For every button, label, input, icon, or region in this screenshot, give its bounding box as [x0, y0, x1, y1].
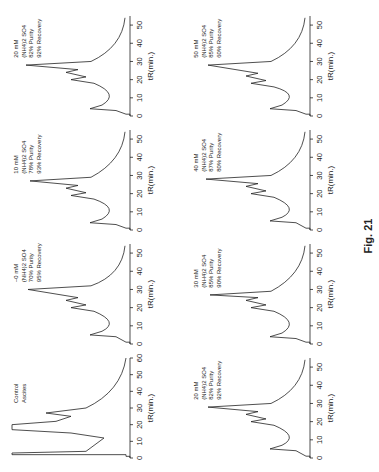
x-tick-label: 50 [315, 363, 324, 371]
x-tick-label: 30 [135, 171, 144, 179]
chromatogram-panel: 01020304050tR(min.)~0 mM(NH4)2 SO470% Pu… [13, 243, 155, 346]
chromatogram-trace [210, 246, 310, 344]
x-tick-label: 0 [135, 342, 144, 346]
x-axis-label: tR(min.) [326, 165, 335, 194]
chromatogram-trace [30, 132, 130, 230]
x-tick-label: 50 [315, 249, 324, 257]
x-axis-label: tR(min.) [326, 51, 335, 80]
x-tick-label: 50 [135, 21, 144, 29]
x-tick-label: 30 [135, 285, 144, 293]
x-tick-label: 10 [315, 436, 324, 444]
x-tick-label: 0 [315, 456, 324, 460]
panel-condition-label: 95% Recovery [36, 243, 42, 282]
x-tick-label: 40 [135, 39, 144, 47]
x-axis-label: tR(min.) [326, 279, 335, 308]
x-tick-label: 20 [315, 189, 324, 197]
panel-condition-label: 87% Purity [208, 143, 214, 172]
panel-condition-label: 40 mM [193, 153, 199, 171]
panel-condition-label: Ascites [21, 384, 27, 403]
chromatogram-trace [28, 246, 130, 344]
panel-condition-label: (NH4)2 SO4 [201, 366, 207, 400]
chromatogram-trace [12, 358, 130, 458]
chromatogram-panel: 01020304050tR(min.)40 mM(NH4)2 SO487% Pu… [193, 130, 335, 232]
x-axis-label: tR(min.) [146, 165, 155, 194]
x-tick-label: 0 [315, 228, 324, 232]
panel-condition-label: 30 mM [193, 269, 199, 287]
x-tick-label: 10 [315, 94, 324, 102]
x-tick-label: 40 [315, 39, 324, 47]
x-tick-label: 40 [315, 153, 324, 161]
panel-condition-label: ~0 mM [13, 264, 19, 283]
x-tick-label: 10 [135, 322, 144, 330]
x-tick-label: 20 [135, 189, 144, 197]
panel-condition-label: (NH4)2 SO4 [201, 254, 207, 288]
panel-condition-label: 92% Recovery [216, 361, 222, 400]
chromatogram-panel: 0102030405060tR(min.)ControlAscites [12, 354, 155, 460]
x-tick-label: 0 [315, 114, 324, 118]
x-tick-label: 0 [135, 456, 144, 460]
x-tick-label: 10 [315, 322, 324, 330]
panel-condition-label: 82% Purity [208, 371, 214, 400]
panel-condition-label: Control [13, 384, 19, 403]
panel-condition-label: 78% Purity [28, 145, 34, 174]
chromatogram-panel: 01020304050tR(min.)10 mM(NH4)2 SO478% Pu… [13, 130, 155, 232]
panel-condition-label: 80% Recovery [216, 133, 222, 172]
panel-condition-label: (NH4)2 SO4 [201, 138, 207, 172]
panel-condition-label: 90% Recovery [216, 249, 222, 288]
x-tick-label: 40 [315, 381, 324, 389]
panel-condition-label: 60% Recovery [216, 19, 222, 58]
x-tick-label: 10 [315, 208, 324, 216]
chromatogram-trace [208, 360, 310, 458]
x-tick-label: 20 [135, 420, 144, 428]
x-tick-label: 50 [315, 21, 324, 29]
x-tick-label: 20 [315, 417, 324, 425]
panel-condition-label: 85% Purity [208, 29, 214, 58]
panel-condition-label: 50 mM [193, 39, 199, 57]
panel-condition-label: 10 mM [13, 155, 19, 173]
figure-caption: Fig. 21 [362, 219, 374, 254]
panel-condition-label: 20 mM [13, 39, 19, 57]
panel-condition-label: (NH4)2 SO4 [21, 24, 27, 58]
x-tick-label: 0 [135, 228, 144, 232]
x-axis-label: tR(min.) [326, 393, 335, 422]
panel-condition-label: 85% Purity [208, 259, 214, 288]
x-tick-label: 0 [315, 342, 324, 346]
x-tick-label: 50 [135, 370, 144, 378]
chromatogram-panel: 01020304050tR(min.)20 mM(NH4)2 SO482% Pu… [193, 358, 335, 460]
panel-condition-label: (NH4)2 SO4 [201, 24, 207, 58]
chromatogram-figure: 0102030405060tR(min.)ControlAscites01020… [0, 0, 379, 472]
panel-condition-label: 20 mM [193, 381, 199, 399]
x-tick-label: 30 [315, 285, 324, 293]
x-tick-label: 10 [135, 437, 144, 445]
x-tick-label: 40 [135, 153, 144, 161]
x-tick-label: 50 [315, 135, 324, 143]
chromatogram-panel: 01020304050tR(min.)50 mM(NH4)2 SO485% Pu… [193, 16, 335, 118]
x-tick-label: 20 [315, 75, 324, 83]
panel-condition-label: (NH4)2 SO4 [21, 249, 27, 283]
chromatogram-trace [26, 18, 130, 116]
x-tick-label: 30 [135, 57, 144, 65]
x-tick-label: 30 [315, 57, 324, 65]
x-tick-label: 10 [135, 94, 144, 102]
chromatogram-trace [208, 18, 310, 116]
x-tick-label: 50 [135, 249, 144, 257]
x-tick-label: 30 [315, 171, 324, 179]
chromatogram-panel: 01020304050tR(min.)20 mM(NH4)2 SO482% Pu… [13, 16, 155, 118]
x-axis-label: tR(min.) [146, 393, 155, 422]
x-axis-label: tR(min.) [146, 279, 155, 308]
x-tick-label: 60 [135, 354, 144, 362]
x-tick-label: 20 [315, 303, 324, 311]
x-tick-label: 0 [135, 114, 144, 118]
x-tick-label: 40 [135, 267, 144, 275]
panel-condition-label: 70% Purity [28, 253, 34, 282]
x-tick-label: 50 [135, 135, 144, 143]
panel-condition-label: 82% Purity [28, 29, 34, 58]
chromatogram-panel: 01020304050tR(min.)30 mM(NH4)2 SO485% Pu… [193, 244, 335, 346]
panel-condition-label: (NH4)2 SO4 [21, 140, 27, 174]
x-tick-label: 30 [315, 399, 324, 407]
x-axis-label: tR(min.) [146, 51, 155, 80]
x-tick-label: 40 [135, 387, 144, 395]
x-tick-label: 30 [135, 404, 144, 412]
x-tick-label: 20 [135, 75, 144, 83]
x-tick-label: 20 [135, 303, 144, 311]
